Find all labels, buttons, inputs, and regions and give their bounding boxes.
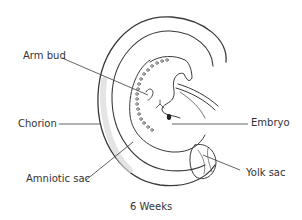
yolk-sac: [190, 144, 216, 178]
label-arm-bud: Arm bud: [23, 51, 66, 61]
embryo-eye: [167, 114, 171, 120]
label-amniotic-sac: Amniotic sac: [26, 174, 90, 184]
label-embryo: Embryo: [251, 118, 290, 128]
embryo-body: [150, 56, 192, 118]
label-yolk-sac: Yolk sac: [246, 168, 285, 178]
embryo-diagram: [0, 0, 302, 220]
diagram-title: 6 Weeks: [130, 202, 172, 212]
yolk-sac-leader: [203, 155, 240, 170]
label-chorion: Chorion: [18, 119, 57, 129]
amniotic-cavity: [130, 60, 205, 152]
chorion-outer: [98, 17, 226, 186]
